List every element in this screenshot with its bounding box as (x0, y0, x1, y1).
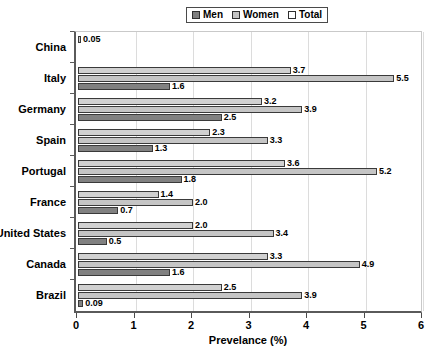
y-axis-label-france: France (30, 196, 66, 207)
bar-value-label: 2.0 (195, 198, 208, 207)
bar-women (78, 106, 302, 113)
bar-women (78, 168, 377, 175)
bar-men (78, 300, 83, 307)
bar-value-label: 3.2 (264, 97, 277, 106)
bar-value-label: 1.6 (172, 268, 185, 277)
legend-label: Total (299, 10, 322, 20)
bar-row: 1.8 (76, 176, 421, 183)
x-axis-tick-label: 3 (245, 319, 251, 331)
x-axis-tick-6 (421, 313, 422, 318)
x-axis-tick-label: 2 (188, 319, 194, 331)
bar-row: 1.3 (76, 145, 421, 152)
bar-women (78, 199, 193, 206)
bar-value-label: 0.7 (120, 206, 133, 215)
bar-total (78, 222, 193, 229)
bar-value-label: 3.9 (304, 291, 317, 300)
bar-row: 0.09 (76, 300, 421, 307)
bar-group: 3.75.51.6 (76, 63, 421, 94)
bar-row: 3.3 (76, 137, 421, 144)
bar-row: 0.5 (76, 238, 421, 245)
bar-value-label: 5.2 (379, 167, 392, 176)
bar-men (78, 207, 118, 214)
gridline-x-6 (423, 32, 424, 311)
x-axis-tick-label: 1 (130, 319, 136, 331)
x-axis-tick-1 (134, 313, 135, 318)
bar-row: 3.2 (76, 98, 421, 105)
bar-value-label: 0.5 (109, 237, 122, 246)
bar-value-label: 0.09 (85, 299, 103, 308)
bar-value-label: 2.5 (224, 113, 237, 122)
bar-women (78, 292, 302, 299)
bar-value-label: 4.9 (362, 260, 375, 269)
bar-total (78, 98, 262, 105)
bar-value-label: 2.5 (224, 283, 237, 292)
bar-row: 1.6 (76, 269, 421, 276)
y-axis-label-brazil: Brazil (36, 289, 66, 300)
bar-men (78, 114, 222, 121)
bar-total (78, 36, 81, 43)
bar-men (78, 269, 170, 276)
x-axis-tick-label: 0 (73, 319, 79, 331)
chart-legend: MenWomenTotal (186, 7, 328, 23)
bar-row: 3.6 (76, 160, 421, 167)
legend-swatch-total-icon (288, 11, 296, 19)
x-axis-tick-5 (364, 313, 365, 318)
bar-row: 5.5 (76, 75, 421, 82)
bar-value-label: 0.05 (83, 35, 101, 44)
bar-group: 2.53.90.09 (76, 280, 421, 311)
bar-value-label: 1.4 (161, 190, 174, 199)
bar-row: 4.9 (76, 261, 421, 268)
bar-value-label: 3.3 (270, 136, 283, 145)
bar-row: 0.05 (76, 36, 421, 43)
bar-row: 2.3 (76, 129, 421, 136)
bar-total (78, 191, 159, 198)
y-axis-label-canada: Canada (26, 258, 66, 269)
legend-swatch-women-icon (232, 11, 240, 19)
bar-total (78, 129, 210, 136)
bar-value-label: 3.7 (293, 66, 306, 75)
bar-total (78, 284, 222, 291)
bar-value-label: 3.3 (270, 252, 283, 261)
bar-value-label: 3.6 (287, 159, 300, 168)
x-axis-tick-4 (306, 313, 307, 318)
bar-women (78, 261, 360, 268)
y-axis-label-germany: Germany (18, 103, 66, 114)
bar-row: 3.9 (76, 292, 421, 299)
bar-value-label: 3.4 (276, 229, 289, 238)
x-axis-tick-label: 4 (303, 319, 309, 331)
bar-row: 3.4 (76, 230, 421, 237)
x-axis-tick-0 (76, 313, 77, 318)
y-axis-label-united-states: United States (0, 227, 66, 238)
y-axis-label-china: China (35, 41, 66, 52)
bar-series-container: 0.053.75.51.63.23.92.52.33.31.33.65.21.8… (76, 32, 421, 311)
y-axis-label-portugal: Portugal (21, 165, 66, 176)
bar-row: 5.2 (76, 168, 421, 175)
bar-row: 1.4 (76, 191, 421, 198)
y-axis-label-italy: Italy (44, 72, 66, 83)
bar-row: 2.5 (76, 284, 421, 291)
x-axis-tick-labels: 0123456 (74, 319, 422, 333)
bar-group: 3.65.21.8 (76, 156, 421, 187)
bar-row: 0.7 (76, 207, 421, 214)
bar-women (78, 137, 268, 144)
bar-row: 3.7 (76, 67, 421, 74)
y-axis-label-spain: Spain (36, 134, 66, 145)
bar-men (78, 176, 182, 183)
bar-value-label: 1.3 (155, 144, 168, 153)
bar-row: 1.6 (76, 83, 421, 90)
x-axis-tick-2 (191, 313, 192, 318)
bar-row: 2.0 (76, 222, 421, 229)
bar-value-label: 2.0 (195, 221, 208, 230)
bar-group: 3.34.91.6 (76, 249, 421, 280)
legend-item-women: Women (232, 10, 279, 20)
bar-men (78, 238, 107, 245)
bar-men (78, 83, 170, 90)
bar-total (78, 67, 291, 74)
bar-value-label: 1.6 (172, 82, 185, 91)
legend-item-men: Men (192, 10, 223, 20)
bar-total (78, 253, 268, 260)
bar-group: 2.33.31.3 (76, 125, 421, 156)
bar-row: 2.5 (76, 114, 421, 121)
bar-group: 0.05 (76, 32, 421, 63)
bar-total (78, 160, 285, 167)
